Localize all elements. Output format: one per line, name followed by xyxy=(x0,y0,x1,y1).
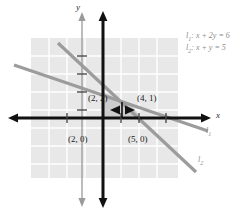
point-label-2-2: (2, 2) xyxy=(88,94,108,103)
x-axis-arrow-right xyxy=(201,113,211,122)
vertical-line-arrow-top xyxy=(99,11,108,21)
x-axis-label: x xyxy=(216,110,220,120)
legend-line2-eq: : x + y = 5 xyxy=(191,43,226,52)
legend-line2: l2: x + y = 5 xyxy=(186,43,230,55)
line-label-l1: l1 xyxy=(206,126,211,137)
graph-figure: y x l1: x + 2y = 6 l2: x + y = 5 (2, 2) … xyxy=(0,0,251,214)
y-axis-label: y xyxy=(76,2,80,12)
line-label-l2-sub: 2 xyxy=(200,160,203,166)
legend-line1: l1: x + 2y = 6 xyxy=(186,31,230,43)
line-label-l1-sub: 1 xyxy=(208,131,211,137)
legend-equations: l1: x + 2y = 6 l2: x + y = 5 xyxy=(186,31,230,54)
y-axis-arrow-bottom xyxy=(78,198,85,207)
x-axis-arrow-left xyxy=(8,113,18,122)
legend-line1-eq: : x + 2y = 6 xyxy=(191,31,230,40)
y-axis-arrow-top xyxy=(78,12,85,21)
point-label-5-0: (5, 0) xyxy=(128,135,148,144)
point-label-2-0: (2, 0) xyxy=(68,135,88,144)
line-label-l2: l2 xyxy=(198,155,203,166)
vertical-line-arrow-bottom xyxy=(99,198,108,208)
point-label-4-1: (4, 1) xyxy=(137,94,157,103)
